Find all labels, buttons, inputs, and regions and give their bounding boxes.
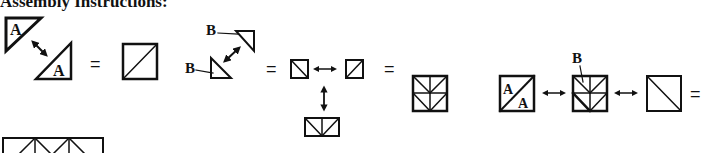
assembly-diagram: A A = B B =	[0, 0, 703, 153]
label-a-4: A	[518, 96, 529, 111]
rectangle-unit	[305, 118, 339, 136]
label-b-3: B	[572, 50, 582, 66]
label-a-1: A	[10, 21, 22, 38]
b-chevron-square	[573, 76, 607, 111]
swap-arrow-icon	[226, 49, 238, 60]
unit-right	[346, 60, 363, 78]
label-a-3: A	[503, 82, 514, 97]
chevron-square	[413, 76, 447, 111]
swap-arrow-icon	[34, 43, 45, 54]
assembled-row	[3, 138, 103, 153]
equals-sign: =	[690, 84, 701, 104]
unit-left	[291, 60, 308, 78]
label-a-2: A	[53, 62, 65, 79]
equals-sign: =	[384, 59, 395, 79]
equals-sign: =	[90, 54, 101, 74]
equals-sign: =	[266, 59, 277, 79]
triangle-b-top	[236, 31, 254, 51]
diagonal-square	[647, 76, 681, 111]
label-b-2: B	[185, 60, 195, 76]
triangle-b-bottom	[211, 58, 231, 78]
label-b-1: B	[206, 22, 216, 38]
half-square-block	[123, 44, 157, 79]
